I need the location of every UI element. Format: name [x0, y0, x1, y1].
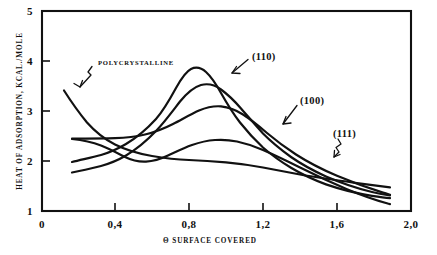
x-tick-label-2-0: 2,0: [404, 218, 419, 230]
x-tick-label-0: 0: [39, 218, 45, 230]
y-tick-label-2: 2: [27, 155, 33, 167]
annotation-polycrystalline: POLYCRYSTALLINE: [98, 59, 174, 66]
x-tick-label-0-8: 0,8: [182, 218, 197, 230]
leader-line-110: [232, 60, 248, 74]
adsorption-heat-chart: 5 4 3 2 1 0 0,4 0,8 1,2 1,6 2,0 HEAT OF …: [0, 0, 437, 255]
x-axis-ticks: [115, 203, 337, 211]
x-tick-label-1-2: 1,2: [256, 218, 271, 230]
x-tick-label-0-4: 0,4: [108, 218, 123, 230]
figure-container: 5 4 3 2 1 0 0,4 0,8 1,2 1,6 2,0 HEAT OF …: [0, 0, 437, 255]
leader-line-100: [283, 106, 297, 125]
y-tick-label-3: 3: [27, 105, 33, 117]
y-tick-label-1: 1: [27, 205, 33, 217]
x-axis-title: Θ SURFACE COVERED: [163, 237, 257, 245]
annotation-100: (100): [300, 95, 324, 107]
curve-lower: [72, 139, 390, 204]
y-tick-label-4: 4: [27, 55, 33, 67]
y-axis-ticks: [42, 61, 50, 161]
y-axis-title: HEAT OF ADSORPTION, KCAL./MOLE: [16, 32, 24, 190]
annotation-111: (111): [333, 128, 356, 140]
annotation-110: (110): [252, 51, 276, 63]
y-tick-label-5: 5: [27, 5, 33, 17]
x-tick-label-1-6: 1,6: [330, 218, 345, 230]
plot-frame: [42, 11, 411, 211]
